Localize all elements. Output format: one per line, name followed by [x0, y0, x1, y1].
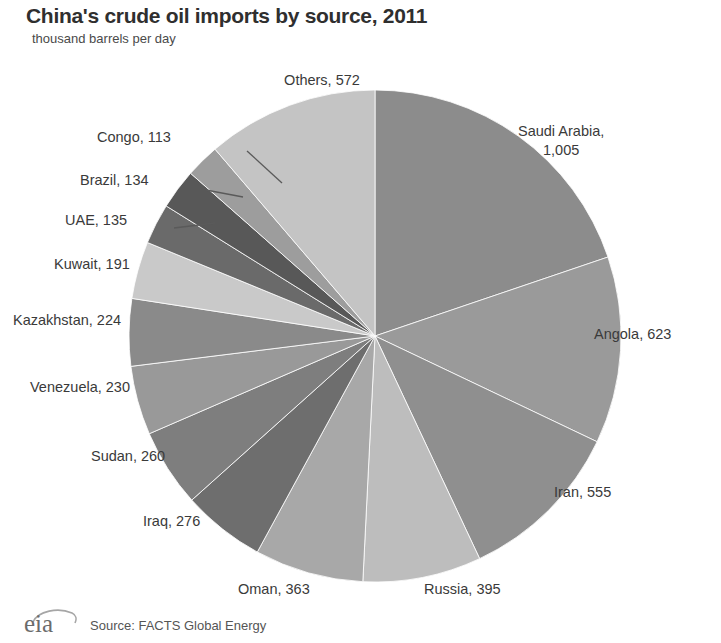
footer: eia Source: FACTS Global Energy	[20, 608, 266, 642]
pie-label-venezuela: Venezuela, 230	[30, 379, 130, 396]
pie-label-saudi-arabia-line2: 1,005	[518, 141, 604, 160]
pie-slice-group	[129, 90, 621, 582]
source-note: Source: FACTS Global Energy	[90, 618, 266, 633]
pie-label-saudi-arabia-line1: Saudi Arabia,	[518, 122, 604, 141]
pie-label-brazil: Brazil, 134	[80, 172, 149, 189]
pie-label-iraq: Iraq, 276	[143, 513, 200, 530]
pie-label-congo: Congo, 113	[97, 129, 171, 146]
pie-label-iran: Iran, 555	[554, 484, 611, 501]
pie-label-sudan: Sudan, 260	[91, 448, 165, 465]
pie-label-kazakhstan: Kazakhstan, 224	[13, 312, 121, 329]
pie-label-kuwait: Kuwait, 191	[54, 256, 130, 273]
pie-label-angola: Angola, 623	[594, 326, 671, 343]
chart-page: China's crude oil imports by source, 201…	[0, 0, 721, 643]
pie-label-russia: Russia, 395	[424, 581, 501, 598]
pie-label-others: Others, 572	[242, 72, 402, 89]
pie-label-saudi-arabia: Saudi Arabia, 1,005	[518, 122, 604, 160]
pie-label-oman: Oman, 363	[238, 581, 310, 598]
eia-logo-icon: eia	[20, 609, 82, 641]
eia-logo-text: eia	[24, 611, 53, 636]
pie-label-uae: UAE, 135	[65, 212, 127, 229]
